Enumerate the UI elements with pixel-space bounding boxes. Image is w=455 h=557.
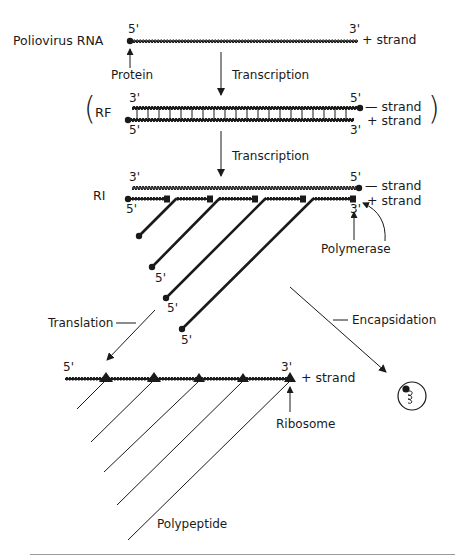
ri-top-5prime: 5' [350, 171, 361, 183]
translation-label: Translation [48, 317, 113, 329]
ri-complex [125, 185, 362, 332]
viral-rna-3prime: 3' [349, 23, 360, 35]
ri-plus-strand-label: + strand [367, 195, 422, 208]
transcription-label-1: Transcription [232, 69, 309, 81]
viral-rna-strand-label: + strand [362, 34, 417, 47]
rf-minus-strand-label: — strand [365, 101, 422, 114]
encapsidation-arrow [290, 287, 386, 372]
ri-tail-5prime-2: 5' [167, 302, 178, 314]
protein-label: Protein [111, 69, 153, 81]
ri-bottom-3prime: 3' [350, 203, 361, 215]
ri-tail-5prime-1: 5' [155, 272, 166, 284]
rf-close-paren: ) [428, 93, 440, 125]
polysome-5prime: 5' [63, 361, 74, 373]
vpg-protein-dot [127, 38, 133, 44]
rf-open-paren: ( [84, 93, 96, 125]
viral-rna-5prime: 5' [128, 23, 139, 35]
rf-bottom-5prime: 5' [129, 124, 140, 136]
polysome-3prime: 3' [281, 361, 292, 373]
polymerase-curved-arrow [363, 203, 385, 241]
rf-plus-strand-label: + strand [367, 115, 422, 128]
virion-icon [398, 382, 426, 410]
ri-tail-5prime-3: 5' [181, 334, 192, 346]
polypeptide-label: Polypeptide [157, 518, 227, 530]
ri-minus-strand-label: — strand [365, 180, 422, 193]
encapsidation-label: Encapsidation [352, 314, 436, 326]
polysome-strand-label: + strand [301, 372, 356, 385]
ri-label: RI [93, 190, 105, 203]
rf-label: RF [95, 106, 112, 119]
bottom-rule-divider [30, 554, 455, 555]
rf-duplex [125, 105, 363, 123]
rf-bottom-3prime: 3' [350, 124, 361, 136]
ri-bottom-5prime: 5' [126, 203, 137, 215]
poliovirus-replication-diagram [0, 0, 455, 557]
rf-top-5prime: 5' [350, 92, 361, 104]
transcription-label-2: Transcription [232, 150, 309, 162]
ribosome-label: Ribosome [276, 418, 335, 430]
polysome [65, 372, 296, 540]
viral-rna-label: Poliovirus RNA [13, 35, 103, 48]
viral-rna-strand [127, 38, 358, 44]
ri-top-3prime: 3' [129, 171, 140, 183]
polymerase-label: Polymerase [321, 243, 391, 255]
translation-arrow [107, 310, 155, 360]
rf-top-3prime: 3' [129, 92, 140, 104]
